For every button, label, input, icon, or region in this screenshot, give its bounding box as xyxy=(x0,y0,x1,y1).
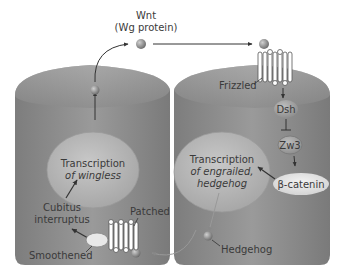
right-nucleus-line3: hedgehog xyxy=(197,178,247,189)
beta-catenin-label: β-catenin xyxy=(277,179,324,190)
wnt-label: Wnt xyxy=(136,10,156,21)
wnt-bound-frizzled xyxy=(259,39,269,49)
wnt-protein-inside xyxy=(91,86,100,95)
cubitus-label-line2: interruptus xyxy=(34,214,89,225)
wg-protein-label: (Wg protein) xyxy=(115,22,178,33)
zw3-label: Zw3 xyxy=(279,140,300,151)
hedgehog-label: Hedgehog xyxy=(221,244,272,255)
hedgehog-protein xyxy=(204,232,213,241)
frizzled-label: Frizzled xyxy=(219,80,257,91)
left-nucleus-line2: of wingless xyxy=(65,170,121,181)
dsh-label: Dsh xyxy=(276,104,295,115)
right-nucleus-line2: of engrailed, xyxy=(190,166,253,177)
frizzled-receptor xyxy=(258,50,292,86)
left-nucleus-line1: Transcription xyxy=(60,158,125,169)
cubitus-label-line1: Cubitus xyxy=(43,202,81,213)
smoothened-protein xyxy=(86,233,108,247)
wnt-protein-extracellular xyxy=(136,39,146,49)
smoothened-label: Smoothened xyxy=(29,250,93,261)
signaling-diagram: Wnt (Wg protein) Frizzled Dsh Zw3 β-cate… xyxy=(0,0,341,270)
right-nucleus-line1: Transcription xyxy=(189,154,254,165)
right-cell xyxy=(174,65,330,265)
patched-label: Patched xyxy=(130,206,170,217)
